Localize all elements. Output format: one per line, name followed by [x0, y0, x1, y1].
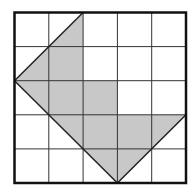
grid-figure	[0, 0, 193, 188]
shaded-region	[15, 13, 187, 184]
shaded-polygon	[15, 13, 187, 184]
